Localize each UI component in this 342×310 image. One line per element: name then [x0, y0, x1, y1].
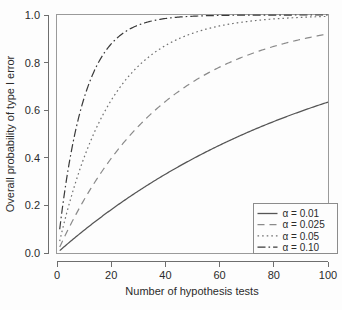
y-tick-label: 0.6	[25, 104, 40, 116]
chart-background	[0, 0, 342, 310]
line-chart-svg: 0.00.20.40.60.81.0 020406080100 α = 0.01…	[0, 0, 342, 310]
chart-legend[interactable]: α = 0.01α = 0.025α = 0.05α = 0.10	[254, 204, 338, 254]
y-tick-label: 0.4	[25, 152, 40, 164]
legend-label-1: α = 0.025	[283, 219, 326, 230]
x-tick-label: 20	[105, 269, 117, 281]
x-tick-label: 100	[319, 269, 337, 281]
y-tick-label: 0.0	[25, 247, 40, 259]
legend-label-3: α = 0.10	[283, 242, 320, 253]
x-tick-label: 40	[159, 269, 171, 281]
y-tick-label: 0.2	[25, 199, 40, 211]
y-tick-label: 0.8	[25, 57, 40, 69]
x-tick-label: 0	[54, 269, 60, 281]
x-tick-label: 60	[213, 269, 225, 281]
legend-label-2: α = 0.05	[283, 231, 320, 242]
x-tick-label: 80	[268, 269, 280, 281]
x-axis-title: Number of hypothesis tests	[125, 285, 259, 297]
y-tick-label: 1.0	[25, 9, 40, 21]
y-axis-title: Overall probability of type I error	[4, 55, 16, 212]
chart-figure: 0.00.20.40.60.81.0 020406080100 α = 0.01…	[0, 0, 342, 310]
legend-label-0: α = 0.01	[283, 208, 320, 219]
